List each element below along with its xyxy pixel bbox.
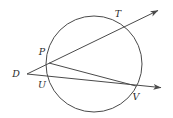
point-label-d: D	[11, 68, 20, 79]
geometry-figure: D P T U V	[0, 0, 173, 118]
circle	[46, 16, 142, 112]
ray-d-p-t	[27, 11, 158, 75]
geometry-diagram: D P T U V	[0, 0, 173, 118]
chord-p-v	[49, 63, 136, 86]
point-label-u: U	[38, 79, 47, 90]
point-label-t: T	[115, 8, 122, 19]
point-label-p: P	[38, 46, 46, 57]
point-label-v: V	[133, 91, 141, 102]
